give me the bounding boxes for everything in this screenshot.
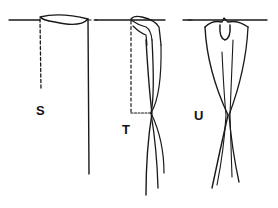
- figure-s: [9, 15, 100, 174]
- fold-guide-dashed: [40, 19, 41, 90]
- figure-u: [183, 18, 267, 188]
- figure-label-t: T: [122, 123, 130, 136]
- fabric-edge: [88, 19, 89, 174]
- figure-label-u: U: [194, 109, 203, 122]
- figure-label-s: S: [36, 104, 45, 117]
- fold-inner: [133, 26, 147, 45]
- strand-left: [205, 27, 228, 188]
- figure-t: [95, 16, 192, 195]
- fold-top: [40, 15, 88, 24]
- diagram-canvas: S T U: [0, 0, 278, 208]
- strand-inner-1: [217, 52, 226, 185]
- fold-middle: [131, 20, 152, 40]
- center-pleat: [220, 25, 230, 40]
